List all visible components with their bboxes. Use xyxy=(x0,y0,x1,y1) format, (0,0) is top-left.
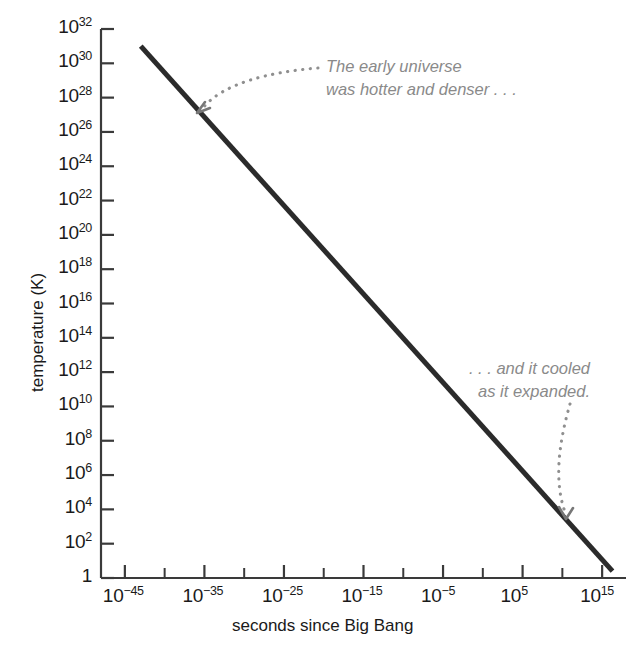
x-axis-tick-label: 105 xyxy=(501,585,528,607)
y-axis-tick-label: 106 xyxy=(65,462,92,484)
y-axis-tick-label: 104 xyxy=(65,496,92,518)
x-axis-tick-label: 10−15 xyxy=(342,585,383,607)
annotation-early-universe: The early universe was hotter and denser… xyxy=(326,55,517,102)
y-axis-tick-label: 1020 xyxy=(58,222,92,244)
x-axis-tick-label: 10−25 xyxy=(262,585,303,607)
y-axis-tick-label: 1022 xyxy=(58,188,92,210)
y-axis-tick-label: 1010 xyxy=(58,393,92,415)
annotation-cooled-expanded-line-2: as it expanded. xyxy=(403,380,590,403)
y-axis-tick-label: 1 xyxy=(82,565,92,587)
data-series-line xyxy=(141,46,613,571)
x-axis-tick-label: 10−5 xyxy=(421,585,455,607)
y-axis-tick-label: 1016 xyxy=(58,291,92,313)
x-axis-tick-label: 10−45 xyxy=(103,585,144,607)
chart-plot-area xyxy=(0,0,637,654)
annotation-arrow-cooled-expanded xyxy=(559,404,570,512)
y-axis-tick-label: 1014 xyxy=(58,325,92,347)
chart-figure: 1032103010281026102410221020101810161014… xyxy=(0,0,637,654)
y-axis-tick-label: 102 xyxy=(65,531,92,553)
x-axis-tick-label: 1015 xyxy=(580,585,614,607)
annotation-early-universe-line-1: The early universe xyxy=(326,55,517,78)
y-axis-tick-label: 1012 xyxy=(58,359,92,381)
x-axis-tick-label: 10−35 xyxy=(182,585,223,607)
annotation-cooled-expanded-line-1: . . . and it cooled xyxy=(403,357,590,380)
y-axis-tick-label: 108 xyxy=(65,428,92,450)
annotation-arrow-early-universe xyxy=(203,68,318,108)
y-axis-tick-label: 1026 xyxy=(58,119,92,141)
annotation-early-universe-line-2: was hotter and denser . . . xyxy=(326,78,517,101)
data-series-group xyxy=(141,46,613,571)
y-axis-tick-label: 1032 xyxy=(58,16,92,38)
annotation-cooled-expanded: . . . and it cooled as it expanded. xyxy=(403,357,590,404)
y-axis-ticks xyxy=(101,29,114,578)
x-axis-title: seconds since Big Bang xyxy=(232,616,413,636)
y-axis-tick-label: 1024 xyxy=(58,153,92,175)
annotation-arrows xyxy=(197,68,573,519)
y-axis-tick-label: 1028 xyxy=(58,85,92,107)
y-axis-title: temperature (K) xyxy=(28,273,48,392)
x-axis-ticks xyxy=(125,565,602,578)
y-axis-tick-label: 1030 xyxy=(58,50,92,72)
y-axis-tick-label: 1018 xyxy=(58,256,92,278)
